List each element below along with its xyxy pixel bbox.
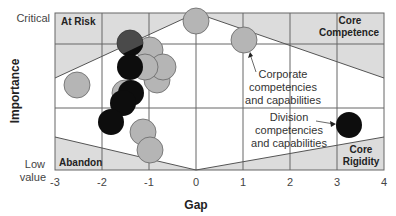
region-core-competence-2: Competence bbox=[319, 27, 379, 38]
svg-text:Division: Division bbox=[270, 111, 309, 123]
svg-text:1: 1 bbox=[240, 176, 246, 188]
svg-text:competencies: competencies bbox=[255, 124, 323, 136]
upper-shaded-region bbox=[55, 13, 384, 78]
svg-text:3: 3 bbox=[334, 176, 340, 188]
svg-text:2: 2 bbox=[287, 176, 293, 188]
y-tick-value: value bbox=[20, 171, 46, 183]
region-at-risk: At Risk bbox=[61, 16, 96, 27]
svg-text:competencies: competencies bbox=[249, 81, 317, 93]
svg-text:-1: -1 bbox=[144, 176, 154, 188]
y-tick-critical: Critical bbox=[16, 12, 50, 24]
x-axis-title: Gap bbox=[184, 198, 207, 212]
data-point bbox=[336, 112, 362, 138]
region-core-competence-1: Core bbox=[339, 15, 362, 26]
svg-text:Corporate: Corporate bbox=[259, 68, 308, 80]
y-axis-title: Importance bbox=[8, 58, 22, 123]
data-point bbox=[231, 27, 257, 53]
region-core-rigidity-1: Core bbox=[350, 144, 373, 155]
y-tick-low: Low bbox=[25, 158, 45, 170]
x-axis-ticks: -3 -2 -1 0 1 2 3 4 bbox=[50, 176, 387, 188]
data-point bbox=[64, 72, 90, 98]
data-point bbox=[183, 8, 209, 34]
svg-text:-2: -2 bbox=[97, 176, 107, 188]
svg-text:4: 4 bbox=[381, 176, 387, 188]
data-point bbox=[117, 54, 143, 80]
annotation-division: Division competencies and capabilities bbox=[251, 111, 336, 149]
svg-text:0: 0 bbox=[193, 176, 199, 188]
svg-text:and capabilities: and capabilities bbox=[251, 137, 327, 149]
data-point bbox=[98, 109, 124, 135]
lower-shaded-region bbox=[55, 137, 384, 170]
svg-text:and capabilities: and capabilities bbox=[245, 94, 321, 106]
competence-gap-chart: At Risk Core Competence Abandon Core Rig… bbox=[0, 0, 396, 216]
region-core-rigidity-2: Rigidity bbox=[343, 156, 380, 167]
data-point bbox=[137, 137, 163, 163]
region-abandon: Abandon bbox=[59, 157, 102, 168]
svg-text:-3: -3 bbox=[50, 176, 60, 188]
annotation-corporate: Corporate competencies and capabilities bbox=[245, 52, 321, 106]
